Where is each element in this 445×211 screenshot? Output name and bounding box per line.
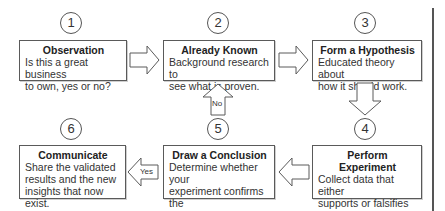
arrow-down-3-to-4 — [349, 83, 381, 115]
yes-label: Yes — [140, 167, 153, 176]
no-label: No — [212, 99, 222, 108]
right-divider-line — [432, 8, 434, 211]
arrow-right-1-to-2 — [130, 46, 159, 74]
arrow-right-2-to-3 — [279, 46, 308, 74]
arrows-layer — [0, 0, 445, 211]
arrow-left-4-to-5 — [279, 158, 309, 186]
